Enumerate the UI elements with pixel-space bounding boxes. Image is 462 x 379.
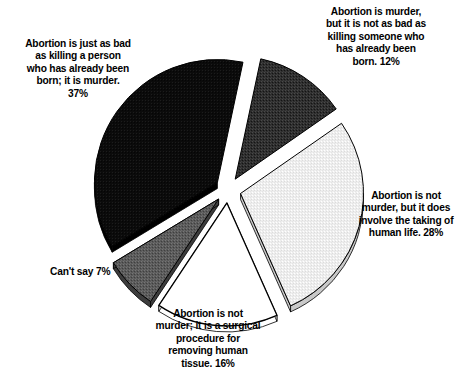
slice-label-37-percent: Abortion is just as bad as killing a per…	[2, 38, 154, 100]
slice-label-16-percent: Abortion is not murder; it is a surgical…	[146, 308, 270, 370]
slice-label-28-percent: Abortion is not murder, but it does invo…	[352, 190, 460, 240]
slice-label-7-percent: Can't say 7%	[50, 266, 162, 278]
pie-chart: Abortion is murder, but it is not as bad…	[0, 0, 462, 379]
slice-label-12-percent: Abortion is murder, but it is not as bad…	[296, 6, 456, 68]
